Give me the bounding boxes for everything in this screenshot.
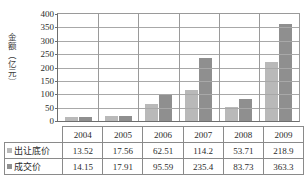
bar-2008-series-0: [225, 107, 238, 121]
bar-2009-series-1: [279, 24, 292, 121]
data-table-cell: 114.2: [183, 143, 223, 159]
data-table-corner-cell: [5, 127, 63, 143]
y-axis-tick-label: 200: [41, 63, 55, 72]
category-separator: [179, 14, 180, 121]
chart-plot-area-container: 金额（亿元） 050100150200250300350400: [0, 4, 308, 126]
legend-series-label: 出让底价: [14, 146, 50, 156]
y-axis-tick-label: 250: [41, 50, 55, 59]
y-axis-tick-label: 100: [41, 90, 55, 99]
data-table-cell: 14.15: [63, 159, 103, 175]
bar-2005-series-0: [105, 116, 118, 121]
data-table-column-header: 2006: [143, 127, 183, 143]
data-table-row-header: 出让底价: [5, 143, 63, 159]
y-axis-tick-label: 300: [41, 36, 55, 45]
data-table-cell: 62.51: [143, 143, 183, 159]
bar-2009-series-0: [265, 62, 278, 121]
category-separator: [138, 14, 139, 121]
data-table-cell: 17.91: [103, 159, 143, 175]
data-table-cell: 95.59: [143, 159, 183, 175]
data-table-cell: 13.52: [63, 143, 103, 159]
y-axis-tick-mark: [55, 94, 58, 95]
y-axis-tick-label: 50: [45, 103, 54, 112]
y-axis-tick-label: 400: [41, 10, 55, 19]
bar-2008-series-1: [239, 99, 252, 121]
y-axis-title: 金额（亿元）: [2, 8, 18, 112]
data-table-header-row: 200420052006200720082009: [5, 127, 304, 143]
data-table-column-header: 2007: [183, 127, 223, 143]
legend-swatch-icon: [7, 164, 12, 169]
y-axis-tick-label: 350: [41, 23, 55, 32]
data-table-cell: 218.9: [263, 143, 303, 159]
data-table-column-header: 2005: [103, 127, 143, 143]
y-axis-tick-mark: [55, 41, 58, 42]
data-table-column-header: 2008: [223, 127, 263, 143]
bar-2005-series-1: [119, 116, 132, 121]
y-axis-tick-mark: [55, 27, 58, 28]
data-table-cell: 363.3: [263, 159, 303, 175]
y-axis-tick-mark: [55, 54, 58, 55]
data-table-cell: 235.4: [183, 159, 223, 175]
category-separator: [219, 14, 220, 121]
data-table: 200420052006200720082009出让底价13.5217.5662…: [4, 126, 304, 175]
y-axis-tick-mark: [55, 14, 58, 15]
data-table-row: 出让底价13.5217.5662.51114.253.71218.9: [5, 143, 304, 159]
legend-series-label: 成交价: [14, 162, 41, 172]
data-table-cell: 17.56: [103, 143, 143, 159]
y-axis-tick-label: 0: [50, 117, 55, 126]
y-axis-tick-labels: 050100150200250300350400: [22, 4, 56, 122]
data-table-cell: 53.71: [223, 143, 263, 159]
data-table-row-header: 成交价: [5, 159, 63, 175]
data-table-column-header: 2009: [263, 127, 303, 143]
data-table-body: 200420052006200720082009出让底价13.5217.5662…: [5, 127, 304, 175]
plot-frame: [57, 13, 300, 122]
y-axis-tick-mark: [55, 121, 58, 122]
y-axis-tick-label: 150: [41, 76, 55, 85]
data-table-column-header: 2004: [63, 127, 103, 143]
y-axis-tick-mark: [55, 68, 58, 69]
category-separator: [98, 14, 99, 121]
bar-2004-series-1: [79, 117, 92, 121]
data-table-cell: 83.73: [223, 159, 263, 175]
bar-2004-series-0: [65, 117, 78, 121]
y-axis-tick-mark: [55, 81, 58, 82]
y-axis-tick-mark: [55, 108, 58, 109]
category-separator: [259, 14, 260, 121]
legend-swatch-icon: [7, 148, 12, 153]
chart-figure: 金额（亿元） 050100150200250300350400 20042005…: [0, 0, 308, 175]
data-table-row: 成交价14.1517.9195.59235.483.73363.3: [5, 159, 304, 175]
